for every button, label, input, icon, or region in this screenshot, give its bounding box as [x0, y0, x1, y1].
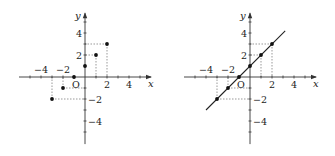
- data-point: [226, 86, 230, 90]
- data-point: [61, 86, 65, 90]
- panel-left: −4−22442−2−4Oxy: [19, 10, 154, 144]
- data-point: [94, 53, 98, 57]
- y-tick-label: −4: [88, 116, 102, 127]
- coordinate-diagram: −4−22442−2−4Oxy−4−22442−2−4Oxy: [0, 0, 335, 156]
- y-tick-label: 2: [76, 50, 82, 61]
- panel-right: −4−22442−2−4Oxy: [184, 10, 319, 144]
- origin-label: O: [72, 79, 80, 90]
- data-point: [248, 64, 252, 68]
- x-tick-label: 2: [104, 79, 110, 90]
- x-axis-label: x: [148, 78, 154, 89]
- data-point: [259, 53, 263, 57]
- y-tick-label: −2: [88, 94, 102, 105]
- x-tick-label: 2: [269, 79, 275, 90]
- y-tick-label: 2: [241, 50, 247, 61]
- data-point: [50, 97, 54, 101]
- x-tick-label: 4: [291, 79, 297, 90]
- diagram-svg: −4−22442−2−4Oxy−4−22442−2−4Oxy: [0, 0, 335, 156]
- y-axis-label: y: [74, 10, 81, 21]
- x-tick-label: −4: [199, 64, 213, 75]
- data-point: [72, 75, 76, 79]
- x-tick-label: 4: [126, 79, 132, 90]
- y-axis-label: y: [239, 10, 246, 21]
- y-tick-label: −4: [253, 116, 267, 127]
- origin-label: O: [237, 79, 245, 90]
- y-tick-label: 4: [241, 28, 247, 39]
- x-tick-label: −2: [56, 64, 70, 75]
- data-point: [105, 42, 109, 46]
- data-point: [83, 64, 87, 68]
- y-axis-arrow-icon: [248, 12, 252, 18]
- x-tick-label: −4: [34, 64, 48, 75]
- data-point: [237, 75, 241, 79]
- data-point: [215, 97, 219, 101]
- y-axis-arrow-icon: [83, 12, 87, 18]
- data-point: [270, 42, 274, 46]
- y-tick-label: 4: [76, 28, 82, 39]
- x-axis-label: x: [313, 78, 319, 89]
- y-tick-label: −2: [253, 94, 267, 105]
- x-tick-label: −2: [221, 64, 235, 75]
